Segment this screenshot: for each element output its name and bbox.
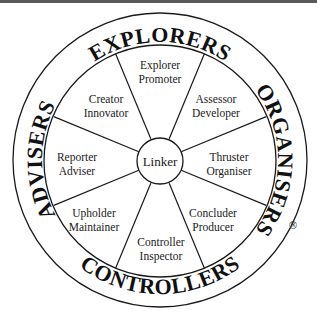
outer-label-advisers: ADVISERS [22,96,60,224]
team-wheel-diagram: Linker EXPLORERS ORGANISERS CONTROLLERS … [0,0,317,324]
svg-text:Adviser: Adviser [59,165,96,177]
svg-text:Thruster: Thruster [210,151,249,163]
svg-text:Innovator: Innovator [84,107,129,119]
sector-upholder-maintainer: Upholder Maintainer [69,207,120,233]
svg-text:Producer: Producer [192,221,234,233]
outer-label-organisers: ORGANISERS [251,79,298,242]
svg-text:Concluder: Concluder [189,207,237,219]
svg-text:Controller: Controller [137,236,184,248]
svg-text:Maintainer: Maintainer [69,221,120,233]
center-label: Linker [143,154,178,169]
sector-controller-inspector: Controller Inspector [137,236,184,263]
svg-text:Upholder: Upholder [72,207,116,220]
sector-concluder-producer: Concluder Producer [189,207,237,233]
svg-text:Organiser: Organiser [206,165,251,178]
sector-reporter-adviser: Reporter Adviser [57,151,97,177]
svg-text:Creator: Creator [89,93,124,105]
sector-explorer-promoter: Explorer Promoter [139,59,182,85]
svg-text:Promoter: Promoter [139,73,182,85]
svg-text:Assessor: Assessor [196,93,237,105]
svg-text:Explorer: Explorer [140,59,180,72]
sector-creator-innovator: Creator Innovator [84,93,129,119]
svg-text:Inspector: Inspector [140,250,183,263]
svg-text:Developer: Developer [192,107,240,120]
svg-text:Reporter: Reporter [57,151,97,164]
registered-trademark-mark: ® [288,220,298,231]
sector-thruster-organiser: Thruster Organiser [206,151,251,178]
sector-assessor-developer: Assessor Developer [192,93,240,120]
